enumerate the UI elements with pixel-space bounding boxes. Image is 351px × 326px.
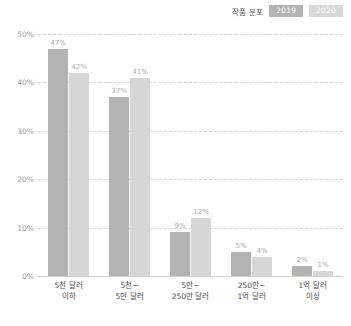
x-label-2-line2: 250만 달러 xyxy=(160,291,221,302)
bar-wrap-2019-3: 5% xyxy=(231,34,251,276)
bar-group-3: 5% 4% xyxy=(221,34,282,276)
bar-wrap-2019-1: 37% xyxy=(109,34,129,276)
bar-2020-1[interactable] xyxy=(130,78,150,276)
y-tick-0: 0% xyxy=(22,272,34,281)
bar-2020-3[interactable] xyxy=(252,257,272,276)
x-label-4-line1: 1억 달러 xyxy=(282,280,343,291)
bar-wrap-2020-4: 1% xyxy=(313,34,333,276)
bar-group-2: 9% 12% xyxy=(160,34,221,276)
x-label-3-line1: 250만~ xyxy=(221,280,282,291)
bar-wrap-2019-4: 2% xyxy=(292,34,312,276)
x-label-4-line2: 이상 xyxy=(282,291,343,302)
bar-value-2020-4: 1% xyxy=(317,262,328,269)
bar-value-2019-1: 37% xyxy=(111,88,127,95)
x-label-0: 5천 달러 이하 xyxy=(38,280,99,302)
bar-value-2019-0: 47% xyxy=(50,40,66,47)
bar-wrap-2019-2: 9% xyxy=(170,34,190,276)
bar-2019-2[interactable] xyxy=(170,232,190,276)
bar-2019-4[interactable] xyxy=(292,266,312,276)
x-label-2: 5만~ 250만 달러 xyxy=(160,280,221,302)
y-tick-50: 50% xyxy=(17,30,34,39)
bar-value-2019-4: 2% xyxy=(296,257,307,264)
bar-group-4: 2% 1% xyxy=(282,34,343,276)
bar-2019-3[interactable] xyxy=(231,252,251,276)
bar-wrap-2020-0: 42% xyxy=(69,34,89,276)
bar-2020-4[interactable] xyxy=(313,271,333,276)
x-label-1-line2: 5만 달러 xyxy=(99,291,160,302)
bar-value-2020-2: 12% xyxy=(193,209,209,216)
y-axis-labels: 0% 10% 20% 30% 40% 50% xyxy=(0,34,34,276)
x-label-1: 5천~ 5만 달러 xyxy=(99,280,160,302)
bar-2019-1[interactable] xyxy=(109,97,129,276)
legend-item-2019[interactable]: 2019 xyxy=(269,5,303,17)
bar-wrap-2020-1: 41% xyxy=(130,34,150,276)
bar-value-2019-3: 5% xyxy=(235,243,246,250)
y-tick-20: 20% xyxy=(17,175,34,184)
bar-chart: 작품 분포 2019 2020 0% 10% 20% 30% 40% 50% 4… xyxy=(0,0,351,326)
bar-wrap-2020-3: 4% xyxy=(252,34,272,276)
x-label-3-line2: 1억 달러 xyxy=(221,291,282,302)
bar-group-0: 47% 42% xyxy=(38,34,99,276)
x-label-1-line1: 5천~ xyxy=(99,280,160,291)
bar-2020-0[interactable] xyxy=(69,73,89,276)
bar-value-2020-1: 41% xyxy=(132,69,148,76)
legend-item-2020[interactable]: 2020 xyxy=(309,5,343,17)
x-label-2-line1: 5만~ xyxy=(160,280,221,291)
bar-2020-2[interactable] xyxy=(191,218,211,276)
x-axis-labels: 5천 달러 이하 5천~ 5만 달러 5만~ 250만 달러 250만~ 1억 … xyxy=(38,280,343,302)
bar-group-1: 37% 41% xyxy=(99,34,160,276)
chart-legend: 작품 분포 2019 2020 xyxy=(232,5,343,17)
x-label-0-line2: 이하 xyxy=(38,291,99,302)
legend-title: 작품 분포 xyxy=(232,6,263,17)
plot-area: 47% 42% 37% 41% xyxy=(38,34,343,276)
bar-value-2019-2: 9% xyxy=(174,223,185,230)
bar-value-2020-0: 42% xyxy=(71,64,87,71)
x-label-4: 1억 달러 이상 xyxy=(282,280,343,302)
bar-groups: 47% 42% 37% 41% xyxy=(38,34,343,276)
y-tick-40: 40% xyxy=(17,78,34,87)
bar-wrap-2020-2: 12% xyxy=(191,34,211,276)
bar-wrap-2019-0: 47% xyxy=(48,34,68,276)
y-tick-30: 30% xyxy=(17,126,34,135)
gridline-baseline xyxy=(38,276,343,277)
y-tick-10: 10% xyxy=(17,223,34,232)
bar-2019-0[interactable] xyxy=(48,49,68,276)
x-label-3: 250만~ 1억 달러 xyxy=(221,280,282,302)
x-label-0-line1: 5천 달러 xyxy=(38,280,99,291)
bar-value-2020-3: 4% xyxy=(256,248,267,255)
